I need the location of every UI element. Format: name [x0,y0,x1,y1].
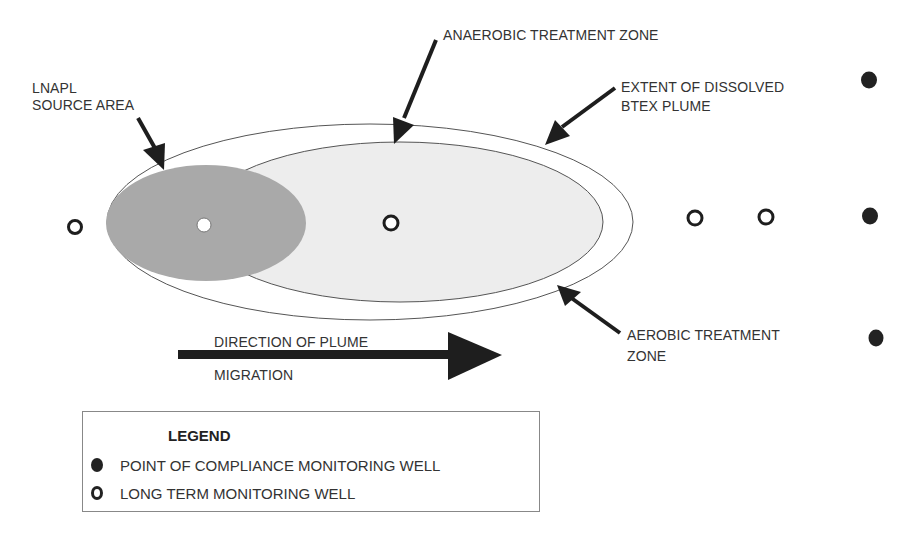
legend-item-compliance: POINT OF COMPLIANCE MONITORING WELL [91,455,440,475]
arrow-lnapl-icon [138,118,165,170]
compliance-well-icon [869,330,884,347]
legend-title: LEGEND [168,427,231,444]
long-term-well-icon [384,216,398,230]
direction-label-line2: MIGRATION [214,367,293,384]
arrow-aerobic-icon [557,285,620,333]
anaerobic-zone-label: ANAEROBIC TREATMENT ZONE [443,27,659,44]
legend-item-label: LONG TERM MONITORING WELL [120,485,355,502]
compliance-well-icon [861,72,877,89]
legend-item-long-term: LONG TERM MONITORING WELL [91,483,355,503]
direction-label-line1: DIRECTION OF PLUME [214,334,368,351]
lnapl-label-line1: LNAPL [32,80,77,97]
aerobic-label-line1: AEROBIC TREATMENT [627,327,780,344]
long-term-well-icon [759,210,773,224]
legend: LEGEND POINT OF COMPLIANCE MONITORING WE… [82,411,540,512]
extent-label-line2: BTEX PLUME [621,98,711,115]
compliance-wells [861,72,884,347]
lnapl-label-line2: SOURCE AREA [32,97,134,114]
long-term-well-icon [69,221,82,234]
legend-item-label: POINT OF COMPLIANCE MONITORING WELL [120,457,440,474]
filled-circle-icon [91,458,103,472]
long-term-well-icon [688,211,702,225]
compliance-well-icon [862,208,878,225]
long-term-well-icon [197,218,211,232]
arrow-extent-icon [545,88,615,145]
extent-label-line1: EXTENT OF DISSOLVED [621,79,784,96]
aerobic-label-line2: ZONE [627,348,666,365]
hollow-circle-icon [91,486,103,500]
